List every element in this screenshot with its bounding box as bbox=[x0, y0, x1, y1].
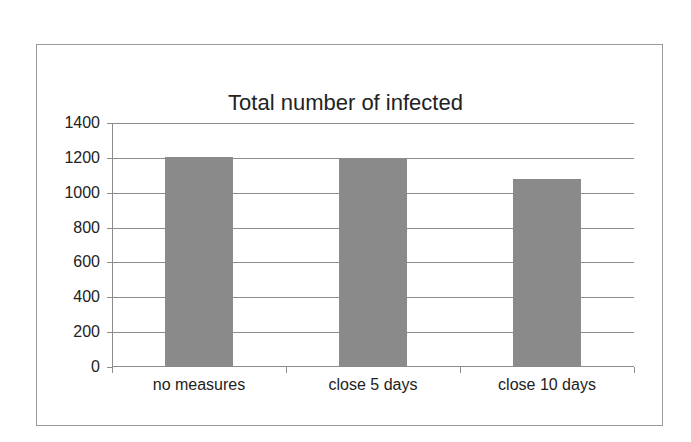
x-tick-mark bbox=[112, 367, 113, 373]
y-tick-label: 200 bbox=[40, 323, 100, 341]
y-tick-mark bbox=[107, 123, 112, 124]
y-tick-mark bbox=[107, 228, 112, 229]
bar bbox=[165, 157, 233, 367]
y-tick-label: 0 bbox=[40, 358, 100, 376]
y-tick-label: 1400 bbox=[40, 114, 100, 132]
y-tick-mark bbox=[107, 158, 112, 159]
bar bbox=[339, 158, 407, 367]
y-tick-label: 800 bbox=[40, 219, 100, 237]
y-tick-mark bbox=[107, 193, 112, 194]
y-axis bbox=[112, 123, 113, 367]
x-tick-label: close 5 days bbox=[286, 376, 460, 394]
y-tick-label: 400 bbox=[40, 288, 100, 306]
y-tick-mark bbox=[107, 332, 112, 333]
x-tick-mark bbox=[286, 367, 287, 373]
x-tick-mark bbox=[634, 367, 635, 373]
gridline bbox=[112, 123, 634, 124]
x-tick-label: no measures bbox=[112, 376, 286, 394]
x-tick-label: close 10 days bbox=[460, 376, 634, 394]
y-tick-label: 600 bbox=[40, 253, 100, 271]
bar bbox=[513, 179, 581, 367]
y-tick-label: 1200 bbox=[40, 149, 100, 167]
y-tick-mark bbox=[107, 262, 112, 263]
plot-area: no measuresclose 5 daysclose 10 days bbox=[112, 123, 634, 367]
x-tick-mark bbox=[460, 367, 461, 373]
y-tick-mark bbox=[107, 297, 112, 298]
chart-title: Total number of infected bbox=[0, 90, 691, 116]
y-tick-label: 1000 bbox=[40, 184, 100, 202]
